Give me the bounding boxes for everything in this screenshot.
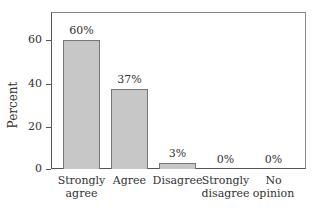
- y-tick-20: [46, 127, 51, 128]
- bar-disagree: [159, 163, 196, 169]
- y-tick-0: [46, 169, 51, 170]
- y-tick-label: 0: [6, 163, 42, 175]
- y-tick-label: 60: [6, 34, 42, 46]
- y-tick-40: [46, 84, 51, 85]
- y-tick-60: [46, 40, 51, 41]
- bar-chart: Percent 0 20 40 60 60%Stronglyagree37%Ag…: [0, 0, 318, 215]
- data-label: 0%: [201, 154, 251, 166]
- data-label: 37%: [105, 74, 155, 86]
- data-label: 3%: [153, 148, 203, 160]
- bar-strongly-agree: [63, 40, 100, 169]
- bar-agree: [111, 89, 148, 169]
- data-label: 60%: [57, 25, 107, 37]
- y-tick-label: 20: [6, 121, 42, 133]
- data-label: 0%: [249, 154, 299, 166]
- y-tick-label: 40: [6, 78, 42, 90]
- x-tick-label: Noopinion: [244, 174, 304, 200]
